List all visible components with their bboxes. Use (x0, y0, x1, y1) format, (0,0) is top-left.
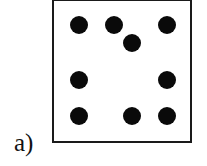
dot-2 (105, 16, 123, 34)
dot-3 (158, 16, 176, 34)
dot-8 (123, 107, 141, 125)
dot-6 (158, 71, 176, 89)
dot-4 (123, 34, 141, 52)
dot-5 (70, 71, 88, 89)
dot-7 (70, 107, 88, 125)
dot-1 (70, 16, 88, 34)
figure-label: a) (14, 128, 33, 158)
dot-9 (158, 107, 176, 125)
